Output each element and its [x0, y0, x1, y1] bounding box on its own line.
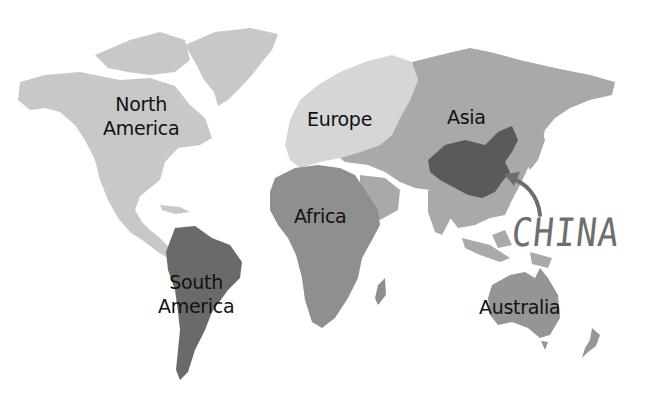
tasmania-shape	[541, 341, 548, 350]
label-china: CHINA	[510, 209, 622, 255]
label-north-america-line1: North	[103, 92, 179, 116]
label-north-america: North America	[103, 92, 179, 140]
label-europe: Europe	[307, 107, 372, 131]
world-map	[0, 0, 662, 396]
arctic-islands-shape	[95, 32, 190, 75]
new-zealand-shape	[582, 328, 600, 358]
label-africa: Africa	[294, 204, 346, 228]
label-north-america-line2: America	[103, 116, 179, 140]
africa-shape	[270, 165, 380, 328]
caribbean-shape	[160, 205, 190, 214]
label-south-america-line2: America	[158, 294, 234, 318]
madagascar-shape	[375, 278, 386, 305]
greenland-shape	[185, 28, 278, 106]
label-asia: Asia	[447, 105, 486, 129]
label-australia: Australia	[479, 295, 560, 319]
label-south-america: South America	[158, 270, 234, 318]
label-south-america-line1: South	[158, 270, 234, 294]
